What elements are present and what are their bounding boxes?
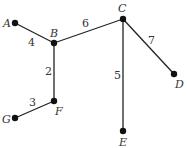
node-B — [51, 40, 57, 46]
node-label-F: F — [54, 105, 63, 118]
edge-weight-C-D: 7 — [148, 34, 155, 47]
edge-weight-C-E: 5 — [114, 69, 121, 82]
node-F — [51, 98, 57, 104]
node-label-D: D — [174, 78, 184, 91]
graph-svg: 462375 ABCDEFG — [0, 0, 187, 148]
tree-diagram: 462375 ABCDEFG — [0, 0, 187, 148]
node-label-G: G — [2, 113, 11, 126]
edge-weight-F-G: 3 — [29, 96, 36, 109]
node-label-B: B — [49, 27, 58, 40]
node-D — [171, 71, 177, 77]
node-C — [120, 16, 126, 22]
node-G — [12, 115, 18, 121]
node-label-E: E — [118, 136, 127, 148]
edge-weight-B-F: 2 — [45, 65, 52, 78]
edge-weight-B-C: 6 — [82, 17, 89, 30]
node-label-C: C — [118, 2, 127, 15]
node-label-A: A — [2, 17, 11, 30]
edge-weight-A-B: 4 — [28, 36, 35, 49]
node-E — [120, 128, 126, 134]
labels-layer: ABCDEFG — [2, 2, 184, 148]
node-A — [12, 20, 18, 26]
weights-layer: 462375 — [28, 17, 155, 109]
